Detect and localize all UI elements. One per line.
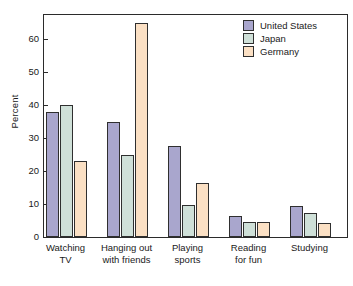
bar[interactable] xyxy=(304,213,317,237)
legend-label: Japan xyxy=(260,33,286,44)
bar[interactable] xyxy=(74,161,87,237)
x-axis-label-line: for fun xyxy=(211,254,287,266)
bar[interactable] xyxy=(182,205,195,237)
y-tick-label: 0 xyxy=(34,231,39,242)
legend-swatch xyxy=(243,20,254,31)
x-axis-label: Studying xyxy=(272,242,348,254)
bar[interactable] xyxy=(196,183,209,237)
bar[interactable] xyxy=(168,146,181,237)
y-tick-label: 10 xyxy=(28,198,39,209)
y-tick-label: 60 xyxy=(28,33,39,44)
bar[interactable] xyxy=(121,155,134,237)
bar[interactable] xyxy=(257,222,270,237)
x-axis-label-line: Studying xyxy=(272,242,348,254)
legend-swatch xyxy=(243,46,254,57)
y-tick-label: 20 xyxy=(28,165,39,176)
bar[interactable] xyxy=(290,206,303,237)
bar[interactable] xyxy=(243,222,256,237)
bar-group xyxy=(167,15,211,237)
legend-item[interactable]: United States xyxy=(243,20,317,31)
bar-group xyxy=(45,15,89,237)
bar[interactable] xyxy=(135,23,148,237)
y-tick-label: 50 xyxy=(28,66,39,77)
y-axis-title: Percent xyxy=(9,72,20,152)
legend-item[interactable]: Germany xyxy=(243,46,317,57)
legend-label: Germany xyxy=(260,46,299,57)
bar-chart: Percent 0102030405060 WatchingTVHanging … xyxy=(0,0,353,286)
bar[interactable] xyxy=(318,223,331,237)
legend-label: United States xyxy=(260,20,317,31)
bar[interactable] xyxy=(107,122,120,237)
bar[interactable] xyxy=(46,112,59,237)
legend: United StatesJapanGermany xyxy=(243,20,317,59)
legend-item[interactable]: Japan xyxy=(243,33,317,44)
bar[interactable] xyxy=(60,105,73,237)
legend-swatch xyxy=(243,33,254,44)
bar-group xyxy=(106,15,150,237)
y-tick-label: 30 xyxy=(28,132,39,143)
bar[interactable] xyxy=(229,216,242,237)
y-tick-label: 40 xyxy=(28,99,39,110)
